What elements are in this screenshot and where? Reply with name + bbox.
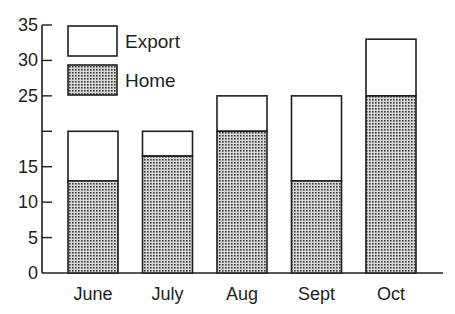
- y-tick-label: 0: [28, 263, 38, 283]
- bar-segment-export: [292, 96, 342, 181]
- bar-segment-export: [217, 96, 267, 131]
- y-tick-label: 15: [18, 157, 38, 177]
- bar-segment-home: [366, 96, 416, 273]
- x-category-label: Aug: [226, 284, 258, 304]
- x-category-label: June: [73, 284, 112, 304]
- legend: ExportHome: [68, 26, 181, 95]
- bar-segment-home: [143, 156, 193, 273]
- bar-segment-export: [68, 131, 118, 181]
- legend-label-home: Home: [125, 70, 176, 91]
- x-category-label: Sept: [298, 284, 335, 304]
- bar-aug: [217, 96, 267, 273]
- bar-sept: [292, 96, 342, 273]
- bars: [68, 39, 416, 273]
- y-tick-label: 25: [18, 86, 38, 106]
- bar-july: [143, 131, 193, 273]
- x-category-label: July: [151, 284, 183, 304]
- y-tick-label: 10: [18, 192, 38, 212]
- bar-segment-home: [68, 181, 118, 273]
- bar-segment-export: [143, 131, 193, 156]
- legend-label-export: Export: [125, 31, 181, 52]
- bar-segment-home: [292, 181, 342, 273]
- y-tick-label: 35: [18, 15, 38, 35]
- bar-oct: [366, 39, 416, 273]
- y-tick-label: 30: [18, 50, 38, 70]
- bar-segment-export: [366, 39, 416, 96]
- bar-june: [68, 131, 118, 273]
- stacked-bar-chart: 051015253035 JuneJulyAugSeptOct ExportHo…: [0, 0, 455, 314]
- legend-swatch-export: [68, 26, 117, 56]
- x-category-label: Oct: [377, 284, 405, 304]
- y-tick-label: 5: [28, 228, 38, 248]
- legend-swatch-home: [68, 65, 117, 95]
- bar-segment-home: [217, 131, 267, 273]
- category-labels: JuneJulyAugSeptOct: [73, 284, 405, 304]
